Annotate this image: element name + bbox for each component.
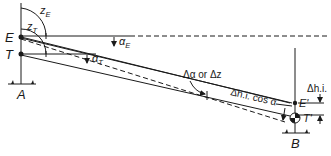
- label-dhi: Δh.i.: [307, 83, 327, 94]
- target-icon: [290, 113, 300, 123]
- label-e-prime: E': [299, 97, 309, 109]
- label-alpha-e: αE: [119, 35, 131, 50]
- delta-alpha-leader: [190, 81, 205, 94]
- dhi-cos-dim-top: [276, 104, 292, 106]
- label-t-prime: T': [303, 112, 313, 124]
- ground-tick-b-right: [305, 129, 308, 133]
- label-delta-alpha: Δα or Δz: [183, 69, 222, 80]
- label-zt: zT: [26, 20, 39, 35]
- label-t: T: [5, 47, 14, 62]
- dashed-sight-e: [21, 39, 285, 122]
- label-a: A: [16, 87, 26, 102]
- label-alpha-t: αT: [92, 52, 104, 67]
- point-e: [19, 35, 24, 40]
- label-ze: zE: [39, 4, 52, 19]
- leveling-diagram: E T A B E' T' zE zT αE αT Δα or Δz Δh.i.…: [0, 0, 331, 156]
- point-e-prime: [293, 101, 297, 105]
- ground-tick-a-left: [11, 80, 14, 84]
- point-t: [19, 52, 24, 57]
- label-e: E: [5, 30, 14, 45]
- ground-tick-b-left: [285, 129, 288, 133]
- sight-line-t: [21, 55, 290, 116]
- label-b: B: [291, 136, 300, 151]
- ground-tick-a-right: [31, 80, 34, 84]
